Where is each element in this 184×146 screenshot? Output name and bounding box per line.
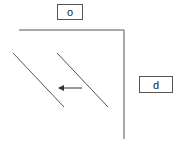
- label-box-top: o: [57, 4, 83, 20]
- label-box-right: d: [139, 76, 173, 93]
- label-right-text: d: [153, 79, 159, 91]
- diagonal-line-left: [13, 53, 64, 107]
- label-top-text: o: [67, 6, 73, 18]
- diagram-canvas: [0, 0, 184, 146]
- diagonal-line-right: [57, 53, 108, 107]
